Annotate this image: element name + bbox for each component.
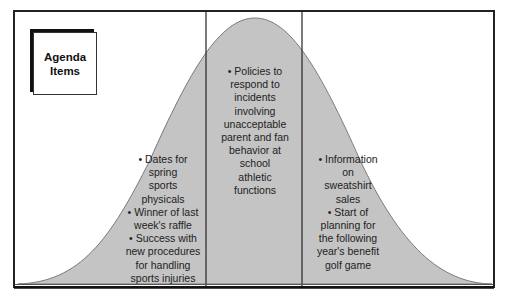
text-line: athletic	[208, 171, 302, 184]
text-line: on	[302, 166, 394, 179]
text-line: new procedures	[118, 245, 208, 258]
text-line: incidents	[208, 91, 302, 104]
text-line: • Information	[302, 153, 394, 166]
text-line: year's benefit	[302, 245, 394, 258]
agenda-title-line2: Items	[44, 64, 86, 78]
middle-column-text: • Policies to respond to incidents invol…	[208, 65, 302, 197]
text-line: • Policies to	[208, 65, 302, 78]
text-line: school	[208, 157, 302, 170]
text-line: unacceptable	[208, 118, 302, 131]
text-line: week's raffle	[118, 219, 208, 232]
text-line: • Start of	[302, 206, 394, 219]
text-line: the following	[302, 232, 394, 245]
text-line: planning for	[302, 219, 394, 232]
right-column-text: • Information on sweatshirt sales • Star…	[302, 153, 394, 272]
text-line: • Success with	[118, 232, 208, 245]
text-line: spring	[118, 166, 208, 179]
text-line: sports	[118, 179, 208, 192]
text-line: sales	[302, 193, 394, 206]
text-line: golf game	[302, 259, 394, 272]
text-line: behavior at	[208, 144, 302, 157]
agenda-items-box: Agenda Items	[33, 32, 97, 95]
text-line: parent and fan	[208, 131, 302, 144]
text-line: involving	[208, 105, 302, 118]
text-line: respond to	[208, 78, 302, 91]
text-line: • Winner of last	[118, 206, 208, 219]
agenda-title-line1: Agenda	[44, 50, 86, 64]
text-line: for handling	[118, 259, 208, 272]
text-line: sweatshirt	[302, 179, 394, 192]
text-line: physicals	[118, 193, 208, 206]
text-line: • Dates for	[118, 153, 208, 166]
text-line: functions	[208, 184, 302, 197]
text-line: sports injuries	[118, 272, 208, 285]
left-column-text: • Dates for spring sports physicals • Wi…	[118, 153, 208, 285]
